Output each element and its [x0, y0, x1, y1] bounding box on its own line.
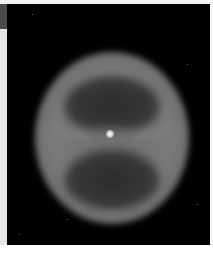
central-star — [106, 130, 114, 138]
background-star — [19, 234, 20, 235]
background-star — [187, 64, 188, 65]
nebula-lower-lobe — [64, 150, 160, 210]
nebula-photo — [7, 4, 210, 245]
side-tab[interactable] — [0, 4, 7, 29]
bottom-border — [0, 245, 213, 277]
right-border — [210, 4, 213, 245]
left-border — [0, 29, 7, 245]
background-star — [32, 14, 33, 15]
background-star — [197, 204, 198, 205]
background-star — [67, 219, 68, 220]
